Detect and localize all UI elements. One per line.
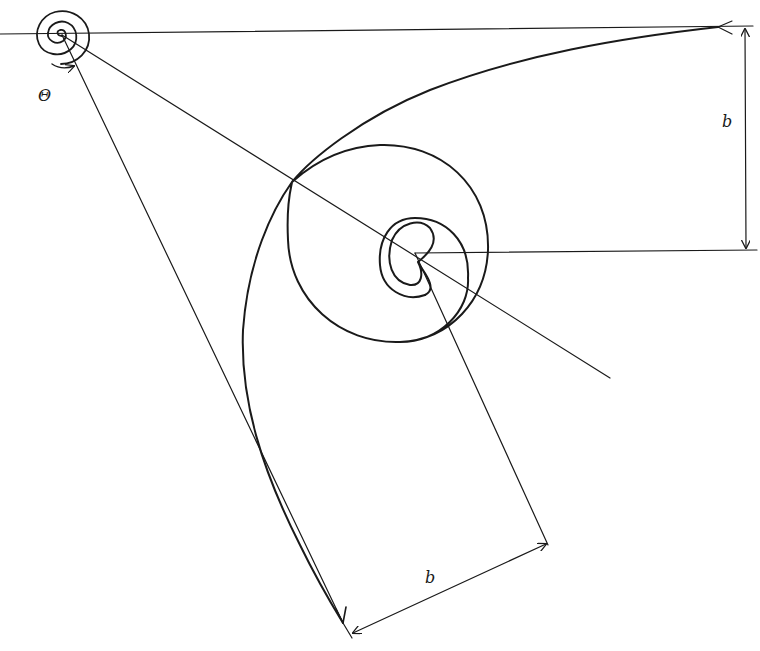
- main-spiral-curve: [243, 27, 718, 623]
- inner-horizontal-line: [415, 250, 757, 253]
- b-vertical-label: b: [722, 112, 732, 131]
- bottom-dimension-b: [353, 544, 546, 633]
- b-bottom-label: b: [425, 568, 435, 587]
- spiral-diagram: [0, 0, 760, 651]
- horizontal-reference-line: [0, 26, 753, 34]
- bottom-extension-left: [343, 623, 352, 638]
- inner-radial-line: [415, 253, 548, 545]
- top-arrow-on-line-2: [718, 27, 732, 34]
- inner-loop: [389, 223, 433, 295]
- theta-label: Θ: [38, 86, 51, 105]
- vertical-dimension-b: [745, 29, 746, 248]
